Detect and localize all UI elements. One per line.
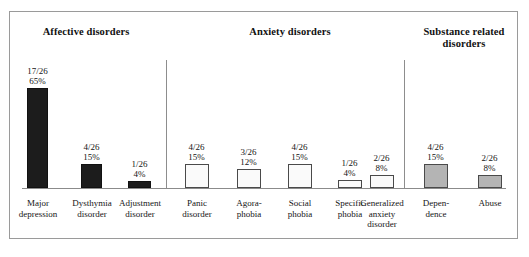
bar-panic-disorder <box>185 164 209 188</box>
bar-abuse <box>478 175 502 188</box>
bar-fraction: 2/26 <box>357 153 406 163</box>
bar-fraction: 4/26 <box>172 142 221 152</box>
bar-percent: 8% <box>357 163 406 173</box>
bar-percent: 4% <box>115 169 164 179</box>
bar-agoraphobia <box>237 169 261 188</box>
cat-label-line2: disorder <box>113 209 167 220</box>
cat-label-dysthymia-disorder: Dysthymia disorder <box>66 198 118 219</box>
group-title-anxiety: Anxiety disorders <box>200 26 380 38</box>
bar-fraction: 3/26 <box>224 147 273 157</box>
cat-label-line3: disorder <box>354 219 410 230</box>
cat-label-line1: Adjustment <box>113 198 167 209</box>
bar-dependence <box>424 164 448 188</box>
bar-generalized-anxiety-disorder <box>370 175 394 188</box>
bar-social-phobia <box>288 164 312 188</box>
bar-dysthymia-disorder <box>81 164 102 188</box>
cat-label-line1: Depen- <box>412 198 460 209</box>
cat-label-major-depression: Major depression <box>13 198 63 219</box>
bar-value-social-phobia: 4/26 15% <box>275 142 324 162</box>
cat-label-line2: depression <box>13 209 63 220</box>
bar-fraction: 4/26 <box>411 142 460 152</box>
bar-value-adjustment-disorder: 1/26 4% <box>115 159 164 179</box>
bar-percent: 8% <box>465 163 514 173</box>
bar-specific-phobia <box>338 180 362 188</box>
cat-label-line2: disorder <box>66 209 118 220</box>
cat-label-agoraphobia: Agora- phobia <box>225 198 273 219</box>
bar-percent: 15% <box>172 152 221 162</box>
cat-label-line1: Dysthymia <box>66 198 118 209</box>
bar-value-panic-disorder: 4/26 15% <box>172 142 221 162</box>
bar-fraction: 4/26 <box>275 142 324 152</box>
cat-label-panic-disorder: Panic disorder <box>172 198 222 219</box>
bar-value-major-depression: 17/26 65% <box>13 66 62 86</box>
cat-label-dependence: Depen- dence <box>412 198 460 219</box>
bar-fraction: 1/26 <box>115 159 164 169</box>
cat-label-line2: disorder <box>172 209 222 220</box>
cat-label-abuse: Abuse <box>466 198 514 209</box>
bar-percent: 15% <box>67 152 116 162</box>
figure-container: Affective disorders Anxiety disorders Su… <box>0 0 529 257</box>
cat-label-line2: phobia <box>276 209 324 220</box>
group-separator-1 <box>166 60 167 189</box>
group-title-substance-line2: disorders <box>443 38 486 49</box>
bar-value-agoraphobia: 3/26 12% <box>224 147 273 167</box>
group-title-substance-line1: Substance related <box>423 26 504 37</box>
bar-percent: 15% <box>275 152 324 162</box>
bar-fraction: 2/26 <box>465 153 514 163</box>
bar-fraction: 4/26 <box>67 142 116 152</box>
cat-label-line1: Social <box>276 198 324 209</box>
caption-strip <box>0 246 529 257</box>
bar-value-dependence: 4/26 15% <box>411 142 460 162</box>
cat-label-line1: Generalized <box>354 198 410 209</box>
cat-label-line2: phobia <box>225 209 273 220</box>
cat-label-line1: Panic <box>172 198 222 209</box>
baseline-axis <box>22 188 506 189</box>
bar-value-dysthymia-disorder: 4/26 15% <box>67 142 116 162</box>
bar-fraction: 17/26 <box>13 66 62 76</box>
cat-label-line2: dence <box>412 209 460 220</box>
group-title-affective: Affective disorders <box>24 26 148 38</box>
cat-label-adjustment-disorder: Adjustment disorder <box>113 198 167 219</box>
bar-major-depression <box>27 88 48 188</box>
bar-value-generalized-anxiety-disorder: 2/26 8% <box>357 153 406 173</box>
cat-label-line1: Major <box>13 198 63 209</box>
group-title-substance: Substance related disorders <box>412 26 516 49</box>
bar-value-abuse: 2/26 8% <box>465 153 514 173</box>
cat-label-line2: anxiety <box>354 209 410 220</box>
bar-adjustment-disorder <box>128 181 151 188</box>
cat-label-line1: Abuse <box>466 198 514 209</box>
bar-percent: 15% <box>411 152 460 162</box>
bar-percent: 65% <box>13 76 62 86</box>
cat-label-social-phobia: Social phobia <box>276 198 324 219</box>
bar-percent: 12% <box>224 157 273 167</box>
cat-label-generalized-anxiety-disorder: Generalized anxiety disorder <box>354 198 410 230</box>
cat-label-line1: Agora- <box>225 198 273 209</box>
